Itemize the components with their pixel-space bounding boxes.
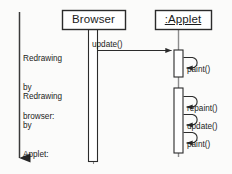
object-label-browser: Browser — [62, 13, 125, 27]
message-label-update-call: update() — [92, 40, 123, 50]
note-line: by — [23, 121, 62, 131]
message-label-repaint-self: repaint() — [187, 104, 218, 114]
note-line: Redrawing — [23, 92, 62, 102]
note-line: Applet: — [23, 150, 62, 160]
message-label-paint-self-1: paint() — [187, 65, 210, 75]
object-label-applet: :Applet — [155, 13, 211, 27]
sequence-diagram-canvas: Browser :Applet Redrawing by browser: Re… — [0, 0, 232, 174]
lifeline-applet — [174, 29, 183, 157]
activation-bar-applet-2 — [174, 88, 183, 153]
note-line: Redrawing — [23, 54, 62, 64]
note-redrawing-by-applet: Redrawing by Applet: — [23, 73, 62, 174]
message-label-update-self: update() — [187, 122, 218, 132]
activation-bar-applet-1 — [174, 50, 183, 77]
message-label-paint-self-2: paint() — [187, 140, 210, 150]
